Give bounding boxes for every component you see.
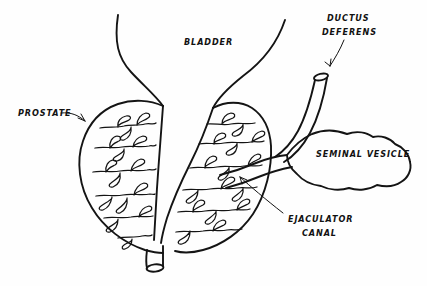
label-ductus-deferens-line2: DEFERENS [322, 27, 377, 37]
leader-lines [61, 40, 344, 213]
prostate-right-glands [176, 113, 265, 244]
diagram-canvas: PROSTATE BLADDER DUCTUS DEFERENS SEMINAL… [0, 0, 427, 286]
label-prostate: PROSTATE [18, 108, 72, 118]
prostate-left-glands [93, 113, 156, 249]
arrowhead-prostate [78, 114, 85, 121]
urethra-cut-face [146, 264, 164, 273]
leader-ductus-deferens [330, 40, 344, 66]
label-bladder: BLADDER [184, 37, 233, 47]
bladder-neck-left-wall [117, 15, 163, 106]
bladder-neck-right-wall [213, 20, 285, 108]
leader-ejaculator-canal [240, 177, 283, 213]
label-ejaculator-canal-line1: EJACULATOR [288, 214, 353, 224]
label-ejaculator-canal-line2: CANAL [302, 228, 337, 238]
arrowhead-ductus-deferens [325, 59, 331, 66]
anatomy-figure: PROSTATE BLADDER DUCTUS DEFERENS SEMINAL… [0, 0, 427, 286]
label-ductus-deferens-line1: DUCTUS [327, 13, 370, 23]
label-seminal-vesicle: SEMINAL VESICLE [316, 149, 410, 159]
